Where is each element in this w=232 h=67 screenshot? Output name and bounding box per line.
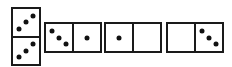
pip-icon <box>214 42 219 47</box>
pip-icon <box>16 55 21 60</box>
pip-icon <box>207 35 212 40</box>
first-half-0-pips <box>168 24 194 51</box>
domino-4 <box>166 22 224 53</box>
pip-icon <box>85 35 90 40</box>
domino-1 <box>11 7 41 66</box>
first-half-3-pips <box>46 24 72 51</box>
second-half-1-pips <box>72 24 100 51</box>
pip-icon <box>31 13 36 18</box>
pip-icon <box>16 26 21 31</box>
second-half-3-pips <box>13 36 39 65</box>
second-half-0-pips <box>132 24 160 51</box>
domino-2 <box>44 22 102 53</box>
domino-3 <box>104 22 162 53</box>
pip-icon <box>199 28 204 33</box>
pip-icon <box>31 42 36 47</box>
second-half-3-pips <box>194 24 222 51</box>
pip-icon <box>57 35 62 40</box>
pip-icon <box>117 35 122 40</box>
pip-icon <box>64 42 69 47</box>
pip-icon <box>49 28 54 33</box>
first-half-1-pips <box>106 24 132 51</box>
pip-icon <box>24 48 29 53</box>
pip-icon <box>24 20 29 25</box>
first-half-3-pips <box>13 9 39 36</box>
